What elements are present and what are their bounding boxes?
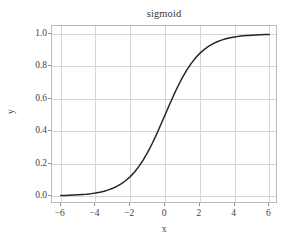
y-axis-label: y [6, 109, 16, 114]
tick-mark-y [48, 195, 51, 196]
sigmoid-line [61, 35, 270, 196]
tick-mark-y [48, 65, 51, 66]
tick-mark-x [199, 203, 200, 206]
x-tick-label: 2 [196, 208, 201, 218]
plot-area [51, 25, 277, 203]
y-tick-label: 0.2 [35, 158, 47, 168]
page-title: sigmoid [51, 8, 277, 19]
y-tick-label: 0.4 [35, 125, 47, 135]
tick-mark-y [48, 130, 51, 131]
x-tick-label: 4 [231, 208, 236, 218]
y-tick-label: 0.0 [35, 190, 47, 200]
sigmoid-curve [52, 26, 278, 204]
x-tick-label: −6 [55, 208, 65, 218]
x-tick-label: 0 [162, 208, 167, 218]
x-tick-label: −2 [124, 208, 134, 218]
x-tick-label: 6 [266, 208, 271, 218]
tick-mark-x [129, 203, 130, 206]
tick-mark-y [48, 163, 51, 164]
tick-mark-y [48, 33, 51, 34]
tick-mark-x [60, 203, 61, 206]
curve-layer [52, 26, 276, 202]
tick-mark-x [164, 203, 165, 206]
tick-mark-x [94, 203, 95, 206]
y-tick-label: 0.8 [35, 60, 47, 70]
tick-mark-x [268, 203, 269, 206]
x-tick-label: −4 [89, 208, 99, 218]
figure-canvas: sigmoid −6−4−20246 0.00.20.40.60.81.0 x … [0, 0, 293, 243]
x-axis-label: x [51, 224, 277, 234]
tick-mark-x [234, 203, 235, 206]
y-tick-label: 1.0 [35, 28, 47, 38]
y-tick-label: 0.6 [35, 93, 47, 103]
tick-mark-y [48, 98, 51, 99]
